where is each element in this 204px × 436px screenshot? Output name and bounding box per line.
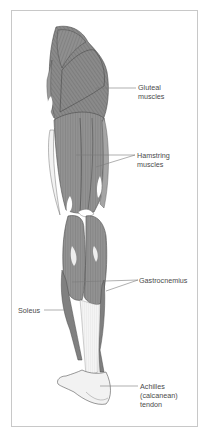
gastrocnemius-muscle — [63, 216, 107, 305]
leader-gastrocnemius-2 — [106, 280, 138, 291]
leg-muscle-illustration — [0, 0, 204, 436]
hamstring-muscles — [48, 112, 108, 217]
achilles-tendon — [80, 300, 100, 376]
label-gluteal-muscles: Gluteal muscles — [138, 83, 164, 101]
foot — [57, 370, 110, 404]
label-hamstring-muscles: Hamstring muscles — [137, 151, 170, 169]
label-gastrocnemius: Gastrocnemius — [139, 276, 187, 285]
label-soleus: Soleus — [18, 306, 40, 315]
label-achilles-tendon: Achilles (calcanean) tendon — [140, 382, 178, 409]
